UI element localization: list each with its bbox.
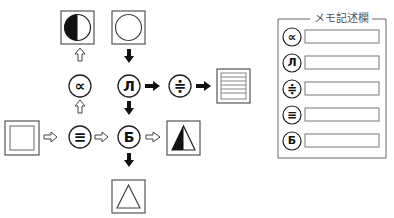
operator-prop-symbol: ∝ <box>69 76 91 96</box>
hollow-arrows <box>44 48 160 142</box>
memo-title: メモ記述欄 <box>311 13 372 25</box>
hollow-arrow-right-icon <box>95 132 108 142</box>
triangle-box <box>112 180 145 213</box>
memo-field-be[interactable] <box>306 135 378 146</box>
memo-field-approx[interactable] <box>306 83 378 94</box>
operator-equiv-symbol: ≡ <box>69 127 91 147</box>
solid-arrow-down-icon <box>124 153 134 167</box>
solid-arrow-down-icon <box>124 49 134 63</box>
solid-arrow-right-icon <box>145 81 160 91</box>
start-double-square-box <box>5 121 39 155</box>
operator-el-symbol: Л <box>118 76 140 96</box>
memo-row-symbol: ≑ <box>283 81 301 97</box>
memo-field-el[interactable] <box>306 57 378 68</box>
operator-be-symbol: Б <box>118 127 140 147</box>
operator-approx-symbol: ≑ <box>169 76 191 96</box>
memo-row-symbol: Л <box>283 55 301 71</box>
memo-field-equiv[interactable] <box>306 109 378 120</box>
hollow-arrow-right-icon <box>146 132 160 142</box>
memo-row-symbol: ≡ <box>283 107 301 123</box>
solid-arrow-right-icon <box>196 81 211 91</box>
hollow-arrow-up-icon <box>75 100 85 113</box>
memo-row-symbol: Б <box>283 133 301 149</box>
memo-field-prop[interactable] <box>306 31 378 42</box>
lines-box <box>217 69 250 103</box>
circle-box <box>112 11 145 44</box>
solid-arrow-down-icon <box>124 101 134 115</box>
memo-row-symbol: ∝ <box>283 29 301 45</box>
hollow-arrow-right-icon <box>44 132 57 142</box>
hollow-arrow-up-icon <box>75 48 85 61</box>
half-circle-box <box>61 11 94 44</box>
half-triangle-box <box>167 121 200 155</box>
